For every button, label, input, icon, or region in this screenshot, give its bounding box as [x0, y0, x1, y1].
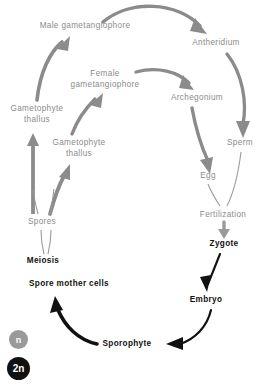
- legend-diploid-badge: 2n: [7, 357, 30, 380]
- node-sperm: Sperm: [227, 138, 253, 149]
- line-sperm-to-fertilization: [227, 152, 241, 206]
- arrow-thallus2-to-female-gametangiophore: [72, 93, 103, 134]
- arrow-embryo-to-sporophyte: [166, 310, 211, 350]
- node-gametophyte-thallus-1: Gametophyte thallus: [0, 104, 74, 125]
- arrow-archegonium-to-egg: [192, 108, 213, 174]
- line-egg-to-fertilization: [208, 184, 220, 206]
- arrow-sporophyte-to-spore-mother-cells: [50, 296, 97, 344]
- arrow-spores-to-thallus2: [50, 164, 70, 214]
- node-gametophyte-thallus-1-line2: thallus: [0, 114, 74, 125]
- node-female-gametangiophore-line2: gametangiophore: [57, 79, 153, 90]
- arrow-antheridium-to-sperm: [227, 54, 250, 138]
- node-gametophyte-thallus-2-line2: thallus: [42, 148, 116, 159]
- node-embryo: Embryo: [190, 295, 223, 306]
- life-cycle-arrows: [0, 0, 273, 388]
- node-sporophyte: Sporophyte: [103, 339, 152, 350]
- legend-haploid-badge: n: [9, 330, 28, 349]
- node-egg: Egg: [200, 171, 216, 182]
- node-archegonium: Archegonium: [171, 93, 223, 104]
- node-fertilization: Fertilization: [200, 210, 246, 221]
- node-gametophyte-thallus-2-line1: Gametophyte: [42, 138, 116, 149]
- node-spores: Spores: [28, 217, 56, 228]
- life-cycle-diagram: Male gametangiophore Antheridium Female …: [0, 0, 273, 388]
- node-spore-mother-cells: Spore mother cells: [29, 279, 109, 290]
- arrow-zygote-to-embryo: [200, 254, 220, 292]
- lines-meiosis-to-spores: [41, 230, 51, 254]
- node-antheridium: Antheridium: [192, 38, 240, 49]
- arrow-fertilization-to-zygote: [218, 222, 230, 239]
- node-female-gametangiophore: Female gametangiophore: [57, 69, 153, 90]
- node-meiosis: Meiosis: [27, 256, 59, 267]
- node-gametophyte-thallus-1-line1: Gametophyte: [0, 104, 74, 115]
- arrow-spores-to-thallus1: [27, 133, 39, 214]
- node-gametophyte-thallus-2: Gametophyte thallus: [42, 138, 116, 159]
- node-female-gametangiophore-line1: Female: [57, 69, 153, 80]
- node-male-gametangiophore: Male gametangiophore: [40, 21, 131, 32]
- lines-spores-upward-thin: [33, 189, 54, 214]
- node-zygote: Zygote: [210, 239, 239, 250]
